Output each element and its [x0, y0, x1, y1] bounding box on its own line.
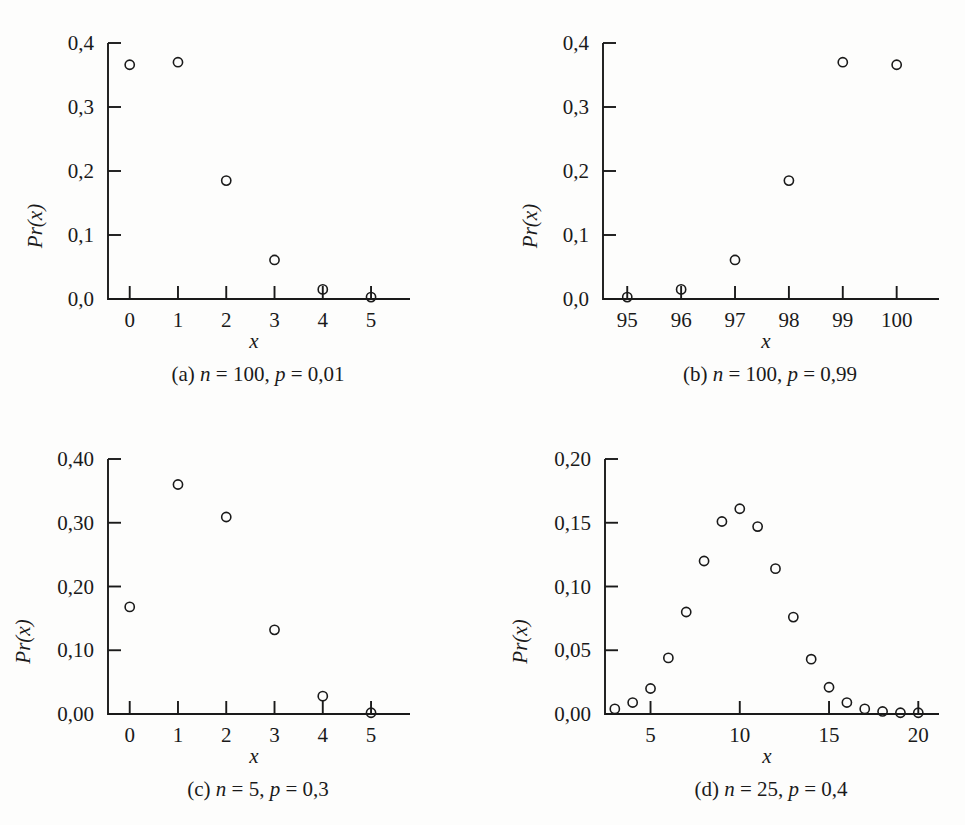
- x-tick-label: 0: [124, 723, 135, 747]
- data-point: [735, 504, 744, 513]
- data-point: [860, 704, 869, 713]
- x-tick-label: 99: [832, 308, 853, 332]
- y-tick-label: 0,30: [57, 511, 94, 535]
- y-tick-label: 0,0: [68, 287, 94, 311]
- y-tick-label: 0,2: [563, 159, 589, 183]
- x-tick-label: 5: [366, 723, 377, 747]
- panel-caption: (b) n = 100, p = 0,99: [683, 362, 857, 386]
- y-tick-label: 0,00: [57, 702, 94, 726]
- data-point: [730, 255, 739, 264]
- x-tick-label: 95: [617, 308, 638, 332]
- data-point: [717, 517, 726, 526]
- panel-d: 0,000,050,100,150,205101520xPr(x)(d) n =…: [483, 412, 965, 825]
- axis-spines: [603, 43, 939, 299]
- data-point: [807, 655, 816, 664]
- data-point: [270, 255, 279, 264]
- x-tick-label: 10: [729, 723, 750, 747]
- axis-spines: [108, 459, 410, 714]
- y-tick-label: 0,3: [563, 95, 589, 119]
- caption-prefix: (d): [694, 777, 724, 801]
- panel-c: 0,000,100,200,300,40012345xPr(x)(c) n = …: [0, 412, 483, 825]
- caption-prefix: (c): [187, 777, 216, 801]
- y-tick-label: 0,00: [554, 702, 591, 726]
- y-tick-label: 0,10: [554, 575, 591, 599]
- data-point: [842, 698, 851, 707]
- x-tick-label: 5: [366, 308, 377, 332]
- caption-n-value: = 25,: [735, 777, 789, 801]
- x-tick-label: 4: [318, 723, 329, 747]
- y-tick-label: 0,15: [554, 511, 591, 535]
- x-tick-label: 3: [269, 308, 280, 332]
- y-tick-label: 0,20: [57, 575, 94, 599]
- panel-caption: (d) n = 25, p = 0,4: [694, 777, 848, 801]
- caption-p-value: = 0,99: [798, 362, 857, 386]
- chart-c: 0,000,100,200,300,40012345xPr(x)(c) n = …: [0, 412, 483, 825]
- caption-n-value: = 5,: [226, 777, 269, 801]
- data-point: [270, 625, 279, 634]
- data-point: [646, 684, 655, 693]
- caption-p-value: = 0,3: [280, 777, 329, 801]
- x-tick-label: 96: [671, 308, 692, 332]
- x-tick-label: 15: [819, 723, 840, 747]
- data-point: [699, 556, 708, 565]
- x-axis-title: x: [248, 744, 259, 768]
- data-point: [771, 564, 780, 573]
- x-tick-label: 100: [881, 308, 913, 332]
- panel-b: 0,00,10,20,30,49596979899100xPr(x)(b) n …: [483, 0, 965, 412]
- y-axis-title: Pr(x): [11, 619, 35, 664]
- y-axis-title: Pr(x): [508, 619, 532, 664]
- x-tick-label: 4: [318, 308, 329, 332]
- data-point: [628, 698, 637, 707]
- y-axis-title: Pr(x): [518, 204, 542, 249]
- caption-n-symbol: n: [724, 777, 735, 801]
- y-tick-label: 0,4: [563, 31, 590, 55]
- axis-spines: [605, 459, 939, 714]
- x-tick-label: 5: [645, 723, 656, 747]
- y-tick-label: 0,40: [57, 447, 94, 471]
- chart-b: 0,00,10,20,30,49596979899100xPr(x)(b) n …: [483, 0, 965, 412]
- plot-area-d: 0,000,050,100,150,205101520xPr(x)(d) n =…: [508, 447, 939, 801]
- x-axis-title: x: [248, 329, 259, 353]
- plot-area-b: 0,00,10,20,30,49596979899100xPr(x)(b) n …: [518, 31, 939, 386]
- x-tick-label: 97: [725, 308, 746, 332]
- caption-n-symbol: n: [200, 362, 211, 386]
- data-point: [838, 58, 847, 67]
- data-point: [896, 708, 905, 717]
- caption-prefix: (a): [172, 362, 201, 386]
- x-axis-title: x: [760, 329, 771, 353]
- data-point: [664, 653, 673, 662]
- caption-p-value: = 0,4: [799, 777, 848, 801]
- panel-caption: (a) n = 100, p = 0,01: [172, 362, 345, 386]
- x-axis-title: x: [761, 744, 772, 768]
- panel-a: 0,00,10,20,30,4012345xPr(x)(a) n = 100, …: [0, 0, 483, 412]
- data-point: [318, 692, 327, 701]
- x-tick-label: 2: [221, 308, 232, 332]
- y-tick-label: 0,3: [68, 95, 94, 119]
- data-point: [682, 607, 691, 616]
- caption-p-value: = 0,01: [285, 362, 344, 386]
- y-tick-label: 0,1: [563, 223, 589, 247]
- data-point: [222, 512, 231, 521]
- x-tick-label: 1: [173, 723, 184, 747]
- chart-a: 0,00,10,20,30,4012345xPr(x)(a) n = 100, …: [0, 0, 483, 412]
- axis-spines: [108, 43, 410, 299]
- data-point: [892, 60, 901, 69]
- panel-caption: (c) n = 5, p = 0,3: [187, 777, 329, 801]
- data-point: [789, 613, 798, 622]
- y-axis-title: Pr(x): [23, 204, 47, 249]
- y-tick-label: 0,4: [68, 31, 95, 55]
- y-tick-label: 0,10: [57, 638, 94, 662]
- x-tick-label: 20: [908, 723, 929, 747]
- data-point: [610, 704, 619, 713]
- x-tick-label: 2: [221, 723, 232, 747]
- caption-n-symbol: n: [713, 362, 724, 386]
- caption-p-symbol: p: [268, 777, 281, 801]
- x-tick-label: 3: [269, 723, 280, 747]
- data-point: [824, 683, 833, 692]
- caption-prefix: (b): [683, 362, 713, 386]
- plot-area-c: 0,000,100,200,300,40012345xPr(x)(c) n = …: [11, 447, 410, 801]
- plot-area-a: 0,00,10,20,30,4012345xPr(x)(a) n = 100, …: [23, 31, 410, 386]
- x-tick-label: 1: [173, 308, 184, 332]
- caption-p-symbol: p: [273, 362, 286, 386]
- data-point: [125, 602, 134, 611]
